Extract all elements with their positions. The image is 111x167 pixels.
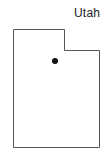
state-map [0, 0, 111, 167]
state-outline [14, 30, 100, 148]
location-marker-icon [52, 58, 58, 64]
